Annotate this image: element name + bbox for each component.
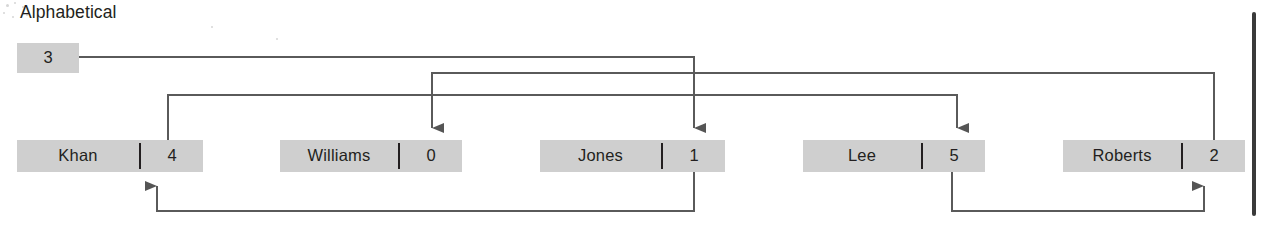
node-name: Williams [280,140,398,172]
node-pointer: 0 [400,140,462,172]
edge-khan-to-roberts [168,95,957,140]
node-pointer: 4 [141,140,203,172]
node-williams: Williams 0 [280,140,462,172]
node-pointer: 2 [1183,140,1245,172]
node-name: Khan [17,140,139,172]
node-pointer: 5 [923,140,985,172]
node-name: Roberts [1063,140,1181,172]
head-pointer-cell: 3 [17,43,79,73]
scan-speck [3,12,5,14]
node-name: Lee [803,140,921,172]
head-pointer-value: 3 [43,48,52,67]
scan-speck [276,38,278,40]
edge-lee-to-roberts [952,172,1204,211]
node-roberts: Roberts 2 [1063,140,1245,172]
node-lee: Lee 5 [803,140,985,172]
scan-speck [6,4,9,7]
right-margin-rule [1252,12,1256,216]
diagram-caption: Alphabetical [20,2,117,23]
edge-roberts-to-williams [432,73,1214,140]
node-khan: Khan 4 [17,140,203,172]
connector-layer [0,0,1267,228]
scan-speck [12,16,14,18]
linked-list-diagram: Alphabetical 3 Khan 4 Williams 0 Jones 1… [0,0,1267,228]
node-jones: Jones 1 [540,140,725,172]
node-pointer: 1 [663,140,725,172]
scan-speck [211,26,213,28]
edge-jones-to-khan [157,172,694,211]
edge-head-to-jones [79,57,694,128]
scan-speck [14,2,16,4]
node-name: Jones [540,140,661,172]
